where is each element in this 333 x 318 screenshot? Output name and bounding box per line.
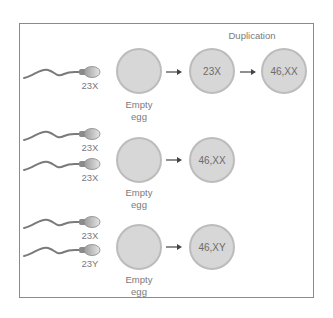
egg-label: Emptyegg xyxy=(119,99,159,123)
sperm-icon xyxy=(22,212,102,232)
sperm-icon xyxy=(22,154,102,174)
sperm-icon xyxy=(22,124,102,144)
sperm-icon xyxy=(22,240,102,260)
empty-egg xyxy=(116,48,162,94)
sperm-label: 23X xyxy=(80,80,100,92)
sperm-label: 23X xyxy=(80,142,100,154)
sperm-label: 23X xyxy=(80,172,100,184)
zygote-circle: 46,XY xyxy=(189,224,235,270)
zygote-circle: 46,XX xyxy=(189,137,235,183)
arrow-icon xyxy=(166,243,182,251)
empty-egg xyxy=(116,137,162,183)
zygote-circle: 46,XX xyxy=(261,48,307,94)
egg-label: Emptyegg xyxy=(119,274,159,298)
sperm-label: 23Y xyxy=(80,258,100,270)
arrow-icon xyxy=(166,156,182,164)
sperm-icon xyxy=(22,62,102,82)
arrow-icon xyxy=(240,68,256,76)
arrow-icon xyxy=(166,68,182,76)
empty-egg xyxy=(116,224,162,270)
duplication-label: Duplication xyxy=(222,30,282,42)
egg-label: Emptyegg xyxy=(119,187,159,211)
zygote-circle: 23X xyxy=(189,48,235,94)
